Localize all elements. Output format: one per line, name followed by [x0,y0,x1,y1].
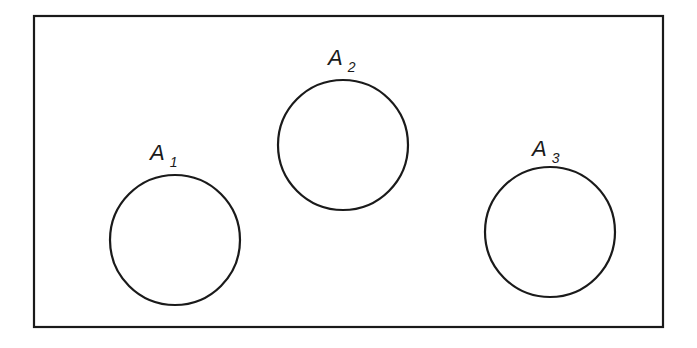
set-circle-a2 [278,80,408,210]
venn-diagram: A1A2A3 [0,0,697,348]
set-circle-a3 [485,167,615,297]
set-label-a2: A2 [326,45,356,75]
set-circle-a1 [110,175,240,305]
set-label-a1: A1 [148,140,177,170]
set-label-a3: A3 [530,136,560,166]
